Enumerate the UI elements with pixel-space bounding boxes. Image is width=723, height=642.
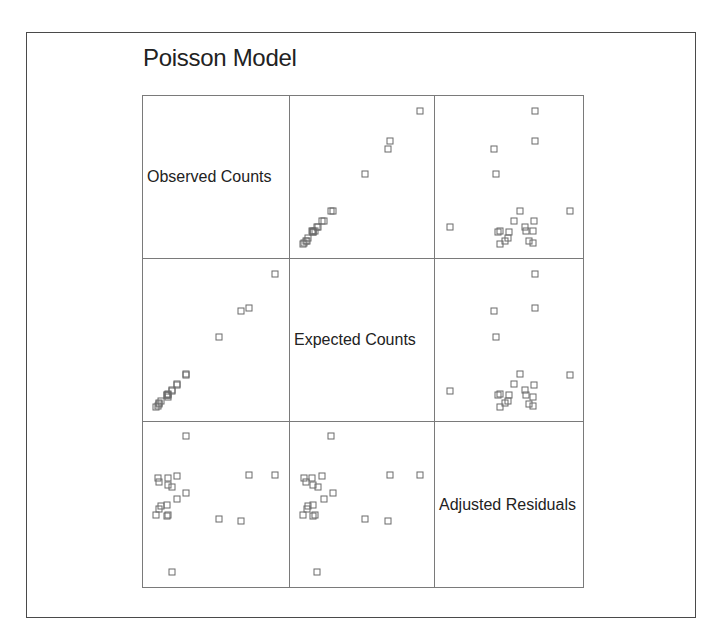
data-point-marker	[328, 432, 335, 439]
data-point-marker	[532, 108, 539, 115]
chart-title: Poisson Model	[143, 44, 297, 72]
data-point-marker	[491, 307, 498, 314]
data-point-marker	[531, 382, 538, 389]
diagonal-label-expected: Expected Counts	[290, 331, 434, 349]
data-point-marker	[446, 223, 453, 230]
data-point-marker	[320, 217, 327, 224]
data-point-marker	[153, 404, 160, 411]
data-point-marker	[153, 511, 160, 518]
data-point-marker	[271, 471, 278, 478]
data-point-marker	[174, 473, 181, 480]
data-point-marker	[215, 334, 222, 341]
panel-r1-c1: Expected Counts	[289, 258, 435, 422]
data-point-marker	[516, 370, 523, 377]
data-point-marker	[521, 386, 528, 393]
data-point-marker	[566, 207, 573, 214]
data-point-marker	[492, 171, 499, 178]
panel-r1-c2	[434, 258, 584, 422]
data-point-marker	[361, 516, 368, 523]
data-point-marker	[532, 137, 539, 144]
data-point-marker	[532, 271, 539, 278]
data-point-marker	[174, 495, 181, 502]
panel-r2-c0	[142, 421, 290, 588]
data-point-marker	[516, 207, 523, 214]
data-point-marker	[245, 471, 252, 478]
data-point-marker	[329, 207, 336, 214]
data-point-marker	[566, 372, 573, 379]
data-point-marker	[310, 501, 317, 508]
panel-r0-c2	[434, 95, 584, 259]
panel-r1-c0	[142, 258, 290, 422]
data-point-marker	[491, 146, 498, 153]
data-point-marker	[529, 393, 536, 400]
diagonal-label-residuals: Adjusted Residuals	[435, 496, 583, 514]
data-point-marker	[319, 473, 326, 480]
data-point-marker	[183, 489, 190, 496]
data-point-marker	[300, 241, 307, 248]
data-point-marker	[361, 171, 368, 178]
data-point-marker	[183, 432, 190, 439]
data-point-marker	[168, 483, 175, 490]
data-point-marker	[314, 568, 321, 575]
data-point-marker	[163, 513, 170, 520]
data-point-marker	[525, 401, 532, 408]
data-point-marker	[310, 513, 317, 520]
data-point-marker	[302, 479, 309, 486]
panel-r2-c1	[289, 421, 435, 588]
data-point-marker	[495, 229, 502, 236]
data-point-marker	[506, 229, 513, 236]
data-point-marker	[531, 217, 538, 224]
scatterplot-matrix: Observed Counts Expected Counts Adjusted…	[142, 95, 584, 588]
data-point-marker	[506, 392, 513, 399]
data-point-marker	[320, 495, 327, 502]
panel-r0-c1	[289, 95, 435, 259]
panel-r2-c2: Adjusted Residuals	[434, 421, 584, 588]
data-point-marker	[314, 223, 321, 230]
data-point-marker	[387, 137, 394, 144]
data-point-marker	[309, 474, 316, 481]
data-point-marker	[384, 517, 391, 524]
data-point-marker	[416, 471, 423, 478]
panel-r0-c0: Observed Counts	[142, 95, 290, 259]
data-point-marker	[237, 307, 244, 314]
data-point-marker	[532, 304, 539, 311]
data-point-marker	[525, 238, 532, 245]
data-point-marker	[168, 388, 175, 395]
data-point-marker	[511, 217, 518, 224]
data-point-marker	[416, 108, 423, 115]
data-point-marker	[384, 146, 391, 153]
data-point-marker	[300, 511, 307, 518]
data-point-marker	[163, 501, 170, 508]
data-point-marker	[183, 370, 190, 377]
data-point-marker	[521, 223, 528, 230]
data-point-marker	[329, 489, 336, 496]
diagonal-label-observed: Observed Counts	[143, 168, 289, 186]
data-point-marker	[155, 479, 162, 486]
data-point-marker	[495, 392, 502, 399]
data-point-marker	[245, 304, 252, 311]
data-point-marker	[496, 404, 503, 411]
data-point-marker	[529, 228, 536, 235]
data-point-marker	[168, 568, 175, 575]
data-point-marker	[164, 474, 171, 481]
data-point-marker	[446, 388, 453, 395]
data-point-marker	[511, 380, 518, 387]
data-point-marker	[315, 483, 322, 490]
data-point-marker	[237, 517, 244, 524]
data-point-marker	[174, 380, 181, 387]
data-point-marker	[492, 334, 499, 341]
data-point-marker	[215, 516, 222, 523]
data-point-marker	[271, 271, 278, 278]
data-point-marker	[496, 241, 503, 248]
data-point-marker	[387, 471, 394, 478]
